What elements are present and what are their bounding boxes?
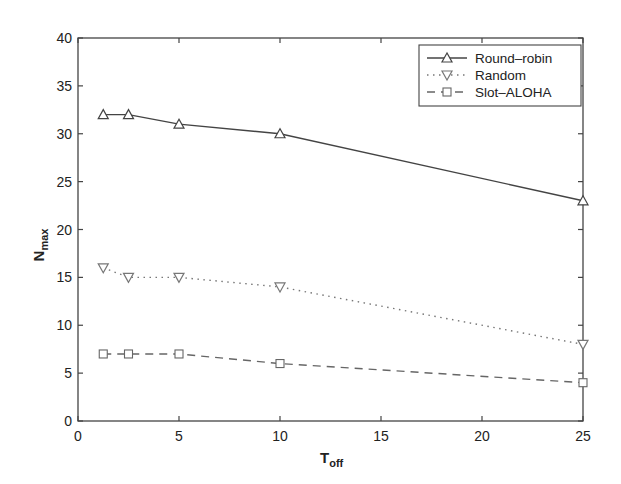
triangle-down-marker xyxy=(98,264,108,273)
square-marker xyxy=(175,350,183,358)
triangle-down-marker xyxy=(578,340,588,349)
triangle-down-marker xyxy=(275,283,285,292)
y-tick-label: 35 xyxy=(56,78,72,94)
x-tick-label: 0 xyxy=(74,428,82,444)
x-tick-label: 10 xyxy=(272,428,288,444)
y-tick-label: 0 xyxy=(64,413,72,429)
legend-label: Round–robin xyxy=(475,51,552,66)
legend: Round–robinRandomSlot–ALOHA xyxy=(419,45,581,106)
x-tick-label: 25 xyxy=(575,428,591,444)
x-tick-label: 20 xyxy=(474,428,490,444)
series-0 xyxy=(98,110,588,205)
y-tick-label: 20 xyxy=(56,222,72,238)
triangle-down-marker xyxy=(174,273,184,282)
y-tick-label: 15 xyxy=(56,269,72,285)
series-1 xyxy=(98,264,588,350)
square-marker xyxy=(276,360,284,368)
y-tick-label: 10 xyxy=(56,317,72,333)
square-marker xyxy=(99,350,107,358)
series-2 xyxy=(99,350,587,387)
x-tick-label: 5 xyxy=(175,428,183,444)
y-tick-label: 40 xyxy=(56,30,72,46)
legend-label: Slot–ALOHA xyxy=(475,85,552,100)
y-tick-label: 25 xyxy=(56,174,72,190)
x-tick-label: 15 xyxy=(373,428,389,444)
y-tick-label: 5 xyxy=(64,365,72,381)
series-line xyxy=(103,268,583,345)
square-marker xyxy=(125,350,133,358)
square-marker xyxy=(443,88,451,96)
line-chart: 05101520250510152025303540 Toff Nmax Rou… xyxy=(0,0,621,484)
x-axis-label: Toff xyxy=(320,449,344,469)
y-axis-label: Nmax xyxy=(30,228,50,262)
y-tick-label: 30 xyxy=(56,126,72,142)
data-series xyxy=(98,110,588,387)
square-marker xyxy=(579,379,587,387)
legend-label: Random xyxy=(475,68,526,83)
